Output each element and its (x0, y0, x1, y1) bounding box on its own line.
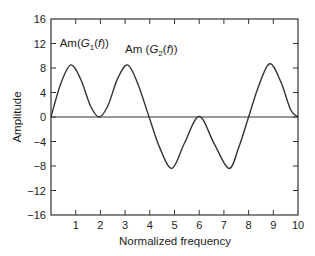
x-tick-label: 9 (270, 219, 276, 231)
y-tick-label: −8 (33, 160, 46, 172)
y-tick-label: 12 (34, 38, 46, 50)
series-label-2: Am (G2(f)) (125, 43, 178, 58)
y-tick-label: −16 (27, 209, 46, 221)
y-tick-label: −4 (33, 136, 46, 148)
x-tick-label: 4 (147, 219, 153, 231)
y-tick-label: 0 (40, 111, 46, 123)
x-axis-label: Normalized frequency (119, 235, 231, 247)
y-tick-label: 8 (40, 62, 46, 74)
y-tick-label: 16 (34, 13, 46, 25)
series-label-1: Am(G1(f)) (60, 37, 109, 52)
y-axis-label: Amplitude (11, 91, 23, 142)
series-annotations: Am(G1(f))Am (G2(f)) (60, 37, 178, 58)
x-tick-label: 10 (292, 219, 304, 231)
amplitude-curve (51, 64, 298, 169)
x-tick-label: 6 (196, 219, 202, 231)
y-tick-label: 4 (40, 87, 46, 99)
x-tick-label: 2 (97, 219, 103, 231)
y-tick-label: −12 (27, 185, 46, 197)
x-tick-label: 3 (122, 219, 128, 231)
amplitude-chart: 123456789101612840−4−8−12−16 Normalized … (0, 0, 315, 256)
x-tick-label: 8 (246, 219, 252, 231)
x-tick-label: 1 (73, 219, 79, 231)
x-tick-label: 7 (221, 219, 227, 231)
x-tick-label: 5 (171, 219, 177, 231)
